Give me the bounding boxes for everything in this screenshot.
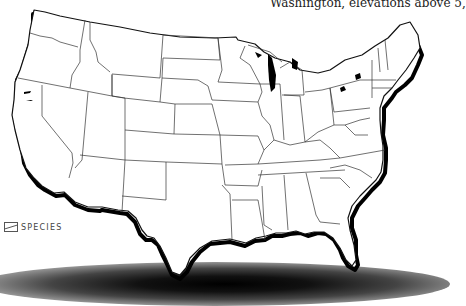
species-logo-text: SPECIES [21,223,62,232]
us-landmass [12,10,420,275]
species-logo: SPECIES [4,222,62,232]
species-logo-icon [4,222,18,232]
